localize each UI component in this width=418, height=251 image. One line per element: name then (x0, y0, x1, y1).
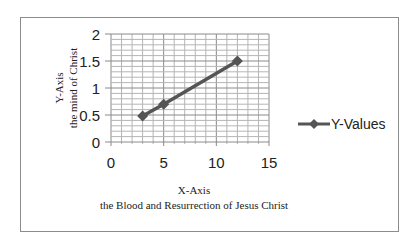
x-axis-title-line1: X-Axis (178, 184, 210, 196)
y-axis-ticks: 00.511.52 (79, 26, 100, 151)
y-axis-title-line2: the mind of Christ (67, 48, 79, 128)
legend-diamond-marker-icon (309, 119, 319, 129)
legend-label: Y-Values (331, 116, 385, 132)
y-tick-label: 2 (92, 26, 100, 43)
x-axis-title-line2: the Blood and Resurrection of Jesus Chri… (100, 199, 288, 211)
y-axis-title-line1: Y-Axis (53, 72, 65, 103)
y-tick-label: 0.5 (79, 107, 100, 124)
y-axis-title: Y-Axis the mind of Christ (53, 48, 79, 128)
x-axis-ticks: 051015 (107, 154, 278, 171)
x-tick-label: 15 (261, 154, 278, 171)
x-tick-label: 0 (107, 154, 115, 171)
series-line (143, 61, 238, 116)
y-tick-label: 1 (92, 80, 100, 97)
y-tick-label: 1.5 (79, 53, 100, 70)
chart-canvas: 00.511.52 051015 Y-Axis the mind of Chri… (0, 0, 418, 251)
y-tick-label: 0 (92, 134, 100, 151)
x-tick-label: 10 (208, 154, 225, 171)
legend: Y-Values (298, 116, 385, 132)
x-tick-label: 5 (159, 154, 167, 171)
